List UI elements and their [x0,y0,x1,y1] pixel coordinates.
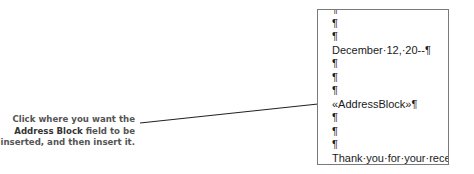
date-line[interactable]: December·12,·20--¶ [332,44,449,58]
body-text-line[interactable]: Thank·you·for·your·recent· [332,152,449,166]
callout-instruction: Click where you want the Address Block f… [1,114,135,149]
paragraph-mark[interactable]: ¶ [332,84,449,98]
paragraph-mark[interactable]: ¶ [332,111,449,125]
paragraph-mark[interactable]: ¶ [332,57,449,71]
address-block-field[interactable]: «AddressBlock»¶ [332,98,449,112]
paragraph-mark[interactable]: ¶ [332,125,449,139]
document-page[interactable]: ¶ ¶ ¶ December·12,·20--¶ ¶ ¶ ¶ «AddressB… [317,9,449,165]
document-body[interactable]: ¶ ¶ ¶ December·12,·20--¶ ¶ ¶ ¶ «AddressB… [332,9,449,165]
paragraph-mark[interactable]: ¶ [332,30,449,44]
callout-field-name: Address Block [14,126,82,136]
paragraph-mark[interactable]: ¶ [332,17,449,31]
callout-line-3: inserted, and then insert it. [1,137,135,149]
paragraph-mark[interactable]: ¶ [332,138,449,152]
paragraph-mark[interactable]: ¶ [332,71,449,85]
callout-line-1: Click where you want the [1,114,135,126]
callout-line-2: Address Block field to be [1,126,135,138]
callout-line-2-rest: field to be [83,126,135,136]
paragraph-mark[interactable]: ¶ [332,9,449,17]
